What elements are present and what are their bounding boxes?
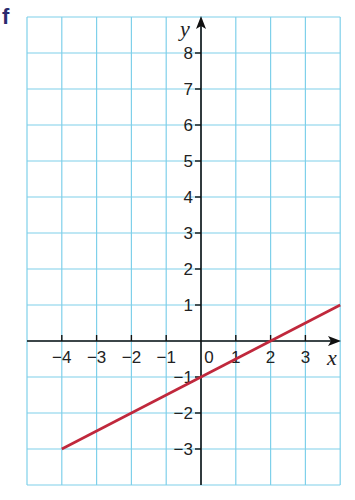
x-tick-label: −4: [52, 348, 71, 367]
y-tick-label: 7: [184, 80, 193, 99]
y-tick-label: 8: [184, 44, 193, 63]
y-tick-label: 5: [184, 152, 193, 171]
y-tick-label: −1: [174, 368, 193, 387]
y-axis-label: y: [178, 16, 190, 41]
y-tick-label: −2: [174, 404, 193, 423]
x-tick-label: 3: [301, 348, 310, 367]
y-tick-label: 3: [184, 224, 193, 243]
x-tick-label: −3: [87, 348, 106, 367]
x-tick-label: 0: [204, 348, 213, 367]
y-tick-label: 2: [184, 260, 193, 279]
line-chart: −4−3−2−10123−3−2−112345678xy: [0, 0, 355, 500]
y-tick-label: 4: [184, 188, 193, 207]
tick-labels: −4−3−2−10123−3−2−112345678xy: [52, 16, 337, 459]
y-tick-label: 6: [184, 116, 193, 135]
x-tick-label: 2: [266, 348, 275, 367]
y-tick-label: 1: [184, 296, 193, 315]
x-axis-label: x: [326, 345, 337, 370]
x-tick-label: −1: [157, 348, 176, 367]
x-tick-label: −2: [122, 348, 141, 367]
y-tick-label: −3: [174, 440, 193, 459]
